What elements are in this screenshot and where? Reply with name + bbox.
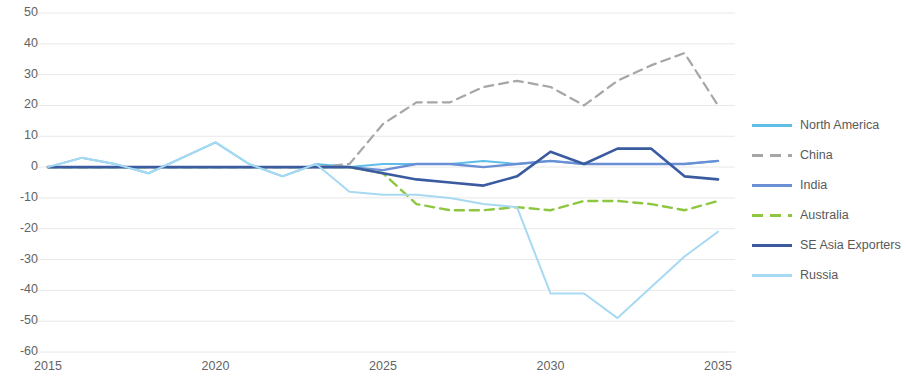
x-tick-label: 2035 [688,359,748,373]
series-line-russia [48,142,718,318]
legend-item-china[interactable]: China [752,140,906,170]
x-tick-label: 2030 [521,359,581,373]
legend-swatch-icon [752,180,792,191]
legend-item-australia[interactable]: Australia [752,200,906,230]
y-tick-label: -10 [4,191,38,204]
legend-item-label: China [800,148,833,162]
legend-item-russia[interactable]: Russia [752,260,906,290]
y-tick-label: -30 [4,253,38,266]
legend-item-north-america[interactable]: North America [752,110,906,140]
gridlines [38,13,735,352]
chart-legend: North AmericaChinaIndiaAustraliaSE Asia … [752,110,906,290]
legend-item-india[interactable]: India [752,170,906,200]
legend-item-label: North America [800,118,879,132]
y-tick-label: 50 [4,6,38,19]
series-lines [48,53,718,318]
y-tick-label: 10 [4,129,38,142]
legend-item-se-asia-exporters[interactable]: SE Asia Exporters [752,230,906,260]
legend-swatch-icon [752,210,792,221]
y-tick-label: 40 [4,37,38,50]
y-tick-label: 30 [4,68,38,81]
y-tick-label: -40 [4,283,38,296]
x-tick-label: 2015 [18,359,78,373]
legend-item-label: Russia [800,268,838,282]
x-tick-label: 2025 [353,359,413,373]
legend-swatch-icon [752,120,792,131]
y-tick-label: 0 [4,160,38,173]
series-line-india [48,161,718,170]
y-tick-label: 20 [4,98,38,111]
x-tick-label: 2020 [186,359,246,373]
legend-item-label: Australia [800,208,849,222]
legend-swatch-icon [752,240,792,251]
line-chart: 50403020100-10-20-30-40-50-60 2015202020… [0,0,906,382]
legend-swatch-icon [752,270,792,281]
y-tick-label: -50 [4,314,38,327]
legend-item-label: India [800,178,827,192]
legend-item-label: SE Asia Exporters [800,238,901,252]
y-axis-tick-labels: 50403020100-10-20-30-40-50-60 [0,0,38,382]
y-tick-label: -60 [4,345,38,358]
y-tick-label: -20 [4,222,38,235]
legend-swatch-icon [752,150,792,161]
